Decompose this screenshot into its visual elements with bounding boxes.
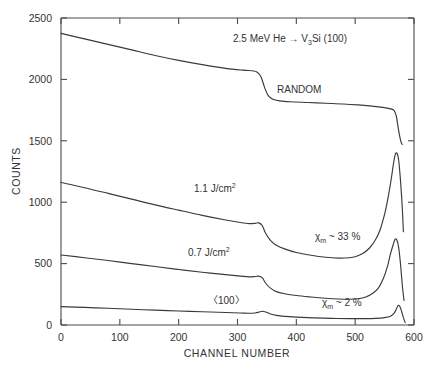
series-label-1-1-jcm2: 1.1 J/cm2 (194, 182, 236, 194)
y-tick-label-500: 500 (34, 257, 52, 269)
fluence-1-1-text: 1.1 J/cm (194, 183, 232, 194)
y-axis-ticks: 05001000150020002500 (29, 12, 414, 331)
y-tick-label-0: 0 (46, 319, 52, 331)
chi-value-33: ~ 33 % (326, 231, 360, 242)
arrow-icon: → (289, 33, 299, 44)
title-species: V (299, 33, 309, 44)
x-tick-label-300: 300 (229, 331, 247, 343)
x-tick-label-400: 400 (288, 331, 306, 343)
y-tick-label-1000: 1000 (29, 196, 53, 208)
chi-value-2: ~ 2 % (333, 297, 362, 308)
series-label-random: RANDOM (277, 84, 321, 95)
plot-axes (61, 18, 414, 325)
fluence-0-7-exponent: 2 (226, 246, 230, 253)
spectra-curves (61, 33, 405, 322)
x-tick-label-200: 200 (170, 331, 188, 343)
curve-random (61, 33, 402, 144)
series-label-0-7-jcm2: 0.7 J/cm2 (188, 246, 230, 258)
x-tick-label-100: 100 (111, 331, 129, 343)
y-tick-label-2000: 2000 (29, 73, 53, 85)
title-pre: 2.5 MeV He (233, 33, 289, 44)
curve-1-1-j-cm2 (61, 153, 403, 258)
chi-min-33-label: χm ~ 33 % (315, 231, 360, 244)
curve-0-7-j-cm2 (61, 239, 404, 301)
y-axis-title: COUNTS (10, 147, 22, 195)
y-tick-label-2500: 2500 (29, 12, 53, 24)
rbs-channeling-spectra-figure: 05001000150020002500 0100200300400500600… (0, 0, 436, 366)
x-tick-label-500: 500 (346, 331, 364, 343)
x-axis-title: CHANNEL NUMBER (184, 347, 291, 359)
y-tick-label-1500: 1500 (29, 135, 53, 147)
series-label-aligned-100: 〈100〉 (208, 295, 245, 306)
fluence-0-7-text: 0.7 J/cm (188, 247, 226, 258)
fluence-1-1-exponent: 2 (232, 182, 236, 189)
beam-condition-title: 2.5 MeV He → V3Si (100) (233, 33, 347, 46)
x-tick-label-600: 600 (405, 331, 423, 343)
x-tick-label-0: 0 (58, 331, 64, 343)
title-species-tail: Si (100) (312, 33, 347, 44)
